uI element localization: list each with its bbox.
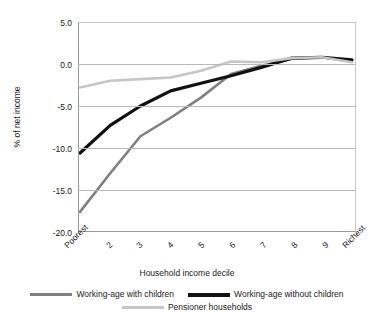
gridline-2 — [78, 148, 356, 149]
x-tick-4: 5 — [196, 240, 206, 250]
plot-frame — [78, 22, 356, 232]
legend-label-2: Pensioner households — [168, 301, 252, 314]
x-tick-7: 8 — [289, 240, 299, 250]
line-swatch-light-grey-icon — [122, 306, 164, 309]
x-axis-title: Household income decile — [0, 268, 374, 278]
plot-area — [78, 22, 356, 232]
gridline-1 — [78, 106, 356, 107]
y-tick-1: 0.0 — [38, 61, 72, 70]
x-tick-1: 2 — [104, 240, 114, 250]
x-tick-6: 7 — [258, 240, 268, 250]
y-axis-title: % of net income — [12, 62, 22, 172]
line-swatch-black-icon — [188, 293, 230, 297]
legend-label-0: Working-age with children — [76, 288, 174, 301]
y-tick-0: 5.0 — [38, 19, 72, 28]
legend-item-working-age-with-children[interactable]: Working-age with children — [30, 288, 174, 301]
legend-item-pensioner-households[interactable]: Pensioner households — [122, 301, 252, 314]
line-swatch-grey-icon — [30, 293, 72, 296]
y-tick-4: -15.0 — [38, 187, 72, 196]
gridline-3 — [78, 190, 356, 191]
x-tick-8: 9 — [320, 240, 330, 250]
x-tick-5: 6 — [227, 240, 237, 250]
gridline-0 — [78, 64, 356, 65]
y-axis-tick-labels: 5.0 0.0 -5.0 -10.0 -15.0 -20.0 — [36, 0, 72, 335]
y-tick-2: -5.0 — [38, 103, 72, 112]
chart-legend: Working-age with children Working-age wi… — [0, 288, 374, 314]
y-tick-3: -10.0 — [38, 145, 72, 154]
legend-item-working-age-without-children[interactable]: Working-age without children — [188, 288, 343, 301]
chart-container: 5.0 0.0 -5.0 -10.0 -15.0 -20.0 % of net … — [0, 0, 374, 335]
x-tick-3: 4 — [165, 240, 175, 250]
x-tick-2: 3 — [134, 240, 144, 250]
legend-label-1: Working-age without children — [234, 288, 343, 301]
